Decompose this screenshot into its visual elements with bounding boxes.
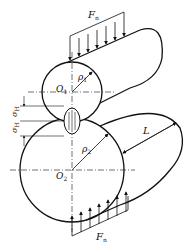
stress-lower-label: σH [10,122,20,133]
stress-upper-label: σH [10,106,20,117]
length-label: L [142,125,150,136]
contact-ellipse [64,108,80,134]
upper-cylinder [42,29,162,122]
cylinder-contact-diagram: Fn Fn O1 O2 ρ1 ρ2 L σH σH [0,0,191,244]
force-bottom-label: Fn [95,231,107,243]
lower-cylinder [20,113,182,222]
force-top-label: Fn [87,9,99,21]
